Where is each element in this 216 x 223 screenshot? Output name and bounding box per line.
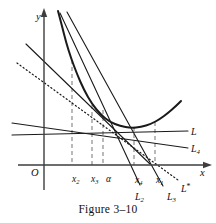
curve-label-L3: L3: [167, 192, 176, 203]
figure-caption: Figure 3–10: [0, 203, 216, 215]
line-L3: [67, 12, 163, 186]
tick-label-alpha: α: [106, 175, 111, 185]
figure-container: y x O x2x3αx4x1 LL4L*L2L3 Figure 3–10: [0, 0, 216, 223]
tick-label-x2: x2: [72, 175, 79, 185]
curve-label-L: L: [191, 127, 197, 137]
tick-label-x3: x3: [91, 175, 98, 185]
tick-label-x1: x1: [156, 176, 163, 186]
curve-label-Lstar: L*: [181, 183, 190, 194]
y-axis-label: y: [36, 12, 41, 23]
line-L: [12, 131, 188, 135]
origin-label: O: [31, 168, 39, 179]
curve-label-L4: L4: [191, 144, 200, 155]
curve-label-L2: L2: [135, 192, 144, 203]
y-axis-arrow: [41, 8, 47, 17]
tick-label-x4: x4: [135, 176, 142, 186]
family-of-lines: [12, 12, 188, 186]
line-L4: [12, 123, 188, 148]
x-axis-label: x: [200, 168, 205, 179]
